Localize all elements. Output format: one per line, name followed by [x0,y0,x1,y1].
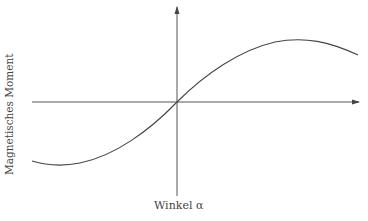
diagram-canvas [0,0,368,221]
y-axis-label: Magnetisches Moment [3,54,15,175]
x-axis-label: Winkel α [154,199,203,212]
